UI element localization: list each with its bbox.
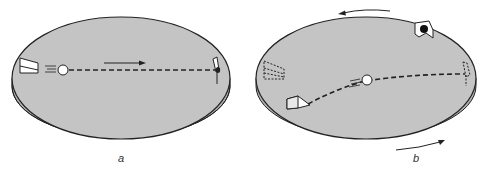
ball-b-icon — [362, 75, 372, 85]
rotation-arrow-bottom-icon — [396, 140, 445, 150]
ball-a-icon — [58, 65, 68, 75]
disk-a-top — [12, 17, 230, 139]
panel-b — [256, 10, 476, 150]
panel-a-label: a — [118, 152, 124, 164]
panel-a — [12, 17, 230, 139]
rotation-arrow-top-icon — [338, 10, 390, 16]
figure-canvas — [0, 0, 487, 169]
panel-b-label: b — [413, 152, 419, 164]
